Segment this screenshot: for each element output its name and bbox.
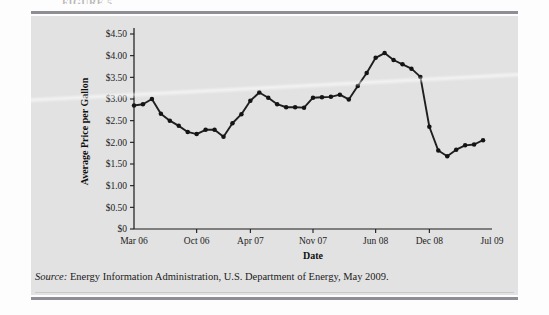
data-point (472, 142, 477, 147)
data-point (203, 128, 208, 132)
source-divider (35, 292, 514, 293)
data-point (427, 124, 432, 129)
y-axis-title: Average Price per Gallon (79, 77, 90, 185)
data-point (320, 95, 325, 100)
data-point (382, 51, 387, 56)
source-note: Source: Energy Information Administratio… (35, 271, 389, 282)
data-point (311, 95, 316, 100)
data-point (230, 121, 235, 126)
figure-page: FIGURE 5 $0$0.50$1.00$1.50$2.00$2.50$3.0… (0, 0, 549, 315)
y-tick-label: $0.50 (106, 203, 128, 213)
data-point (481, 138, 486, 143)
data-point (391, 58, 396, 63)
y-axis-ticks: $0$0.50$1.00$1.50$2.00$2.50$3.00$3.50$4.… (106, 29, 134, 234)
data-point (239, 112, 244, 117)
data-point (159, 111, 164, 116)
x-axis-ticks: Mar 06Oct 06Apr 07Nov 07Jun 08Dec 08Jul … (120, 229, 504, 246)
data-point (338, 92, 343, 97)
x-tick-label: Apr 07 (237, 236, 264, 246)
data-point (177, 124, 182, 128)
figure-panel: $0$0.50$1.00$1.50$2.00$2.50$3.00$3.50$4.… (31, 16, 518, 295)
y-tick-label: $1.50 (106, 159, 128, 169)
data-point (356, 84, 361, 89)
price-line-chart: $0$0.50$1.00$1.50$2.00$2.50$3.00$3.50$4.… (31, 16, 518, 262)
data-point (194, 132, 199, 137)
x-tick-label: Oct 06 (184, 236, 210, 246)
data-point (248, 98, 253, 103)
y-tick-label: $4.50 (106, 29, 128, 39)
data-point (168, 118, 173, 123)
data-point (445, 154, 450, 159)
data-point (454, 147, 459, 152)
y-tick-label: $3.50 (106, 73, 128, 83)
data-point (293, 105, 298, 110)
data-point (373, 56, 378, 61)
data-point (257, 90, 262, 95)
data-point (329, 95, 334, 100)
y-tick-label: $2.00 (106, 138, 128, 148)
data-point (212, 128, 217, 132)
y-tick-label: $1.00 (106, 181, 128, 191)
data-point (150, 97, 155, 102)
price-series-line (134, 53, 483, 156)
data-point (221, 134, 226, 139)
source-body: Energy Information Administration, U.S. … (67, 271, 388, 282)
data-point (266, 95, 271, 100)
data-point (409, 66, 414, 71)
running-head: FIGURE 5 (62, 0, 112, 4)
data-point (141, 102, 146, 107)
x-tick-label: Jul 09 (481, 236, 504, 246)
y-tick-label: $4.00 (106, 51, 128, 61)
x-axis-title: Date (303, 250, 324, 261)
data-point (418, 75, 423, 80)
data-point (400, 62, 405, 67)
data-point (302, 105, 307, 110)
source-label: Source: (35, 271, 67, 282)
data-point (463, 143, 468, 148)
bottom-rule (31, 297, 518, 300)
y-tick-label: $3.00 (106, 94, 128, 104)
x-tick-label: Nov 07 (299, 236, 327, 246)
data-point (284, 105, 289, 110)
y-tick-label: $0 (118, 224, 128, 234)
data-point (275, 102, 280, 107)
y-tick-label: $2.50 (106, 116, 128, 126)
data-point (436, 148, 441, 153)
data-point (347, 97, 352, 102)
chart-area: $0$0.50$1.00$1.50$2.00$2.50$3.00$3.50$4.… (31, 16, 518, 262)
price-series-markers (132, 51, 486, 159)
data-point (132, 103, 137, 108)
data-point (185, 130, 190, 135)
x-tick-label: Mar 06 (120, 236, 148, 246)
data-point (364, 71, 369, 76)
top-rule (31, 11, 518, 14)
x-tick-label: Dec 08 (416, 236, 443, 246)
x-tick-label: Jun 08 (363, 236, 388, 246)
